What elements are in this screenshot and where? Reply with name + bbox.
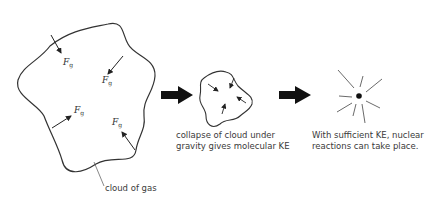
force-label-4: Fg	[112, 117, 122, 128]
reaction-caption-line-1: With sufficient KE, nuclear	[312, 130, 424, 141]
force-arrow-2	[108, 56, 123, 74]
small-force-arrow-2	[230, 78, 234, 88]
collapse-caption-line-1: collapse of cloud under	[176, 130, 290, 141]
process-arrow-1	[161, 86, 193, 104]
small-force-arrow-1	[208, 84, 218, 91]
cloud-of-gas-label: cloud of gas	[105, 183, 157, 194]
diagram-canvas	[0, 0, 425, 214]
collapse-caption: collapse of cloud under gravity gives mo…	[176, 130, 290, 151]
force-arrow-3	[52, 116, 71, 128]
small-force-arrow-3	[237, 97, 246, 103]
force-label-3: Fg	[74, 105, 84, 116]
process-arrow-2	[279, 86, 311, 104]
force-arrow-4	[122, 132, 135, 150]
reaction-caption-line-2: reactions can take place.	[312, 141, 424, 152]
small-force-arrow-4	[222, 104, 225, 114]
force-label-2: Fg	[102, 75, 112, 86]
force-label-1: Fg	[63, 57, 73, 68]
collapse-caption-line-2: gravity gives molecular KE	[176, 141, 290, 152]
nucleus-dot	[356, 93, 362, 99]
reaction-caption: With sufficient KE, nuclear reactions ca…	[312, 130, 424, 151]
cloud-label-pointer	[94, 162, 104, 186]
collapsed-cloud-outline	[200, 71, 253, 126]
